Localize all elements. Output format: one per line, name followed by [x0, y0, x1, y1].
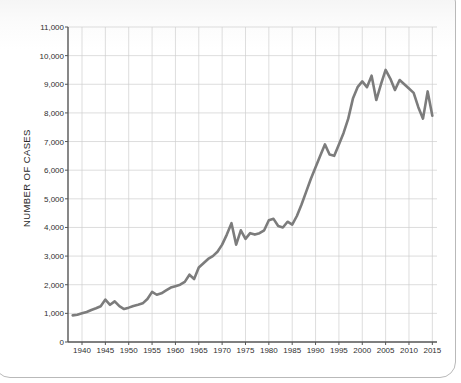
axis-tick-marks [65, 27, 432, 345]
y-axis-tick-label: 4,000 [28, 223, 64, 232]
x-axis-tick-label: 1975 [237, 346, 255, 355]
y-axis-tick-label: 1,000 [28, 309, 64, 318]
y-axis-tick-label: 11,000 [28, 23, 64, 32]
chart-figure: NUMBER OF CASES 01,0002,0003,0004,0005,0… [0, 0, 461, 383]
x-axis-tick-label: 2005 [377, 346, 395, 355]
scanned-page: NUMBER OF CASES 01,0002,0003,0004,0005,0… [0, 0, 461, 383]
axis-lines [68, 27, 437, 342]
x-axis-tick-label: 2000 [353, 346, 371, 355]
y-axis-tick-label: 6,000 [28, 166, 64, 175]
y-axis-tick-label: 8,000 [28, 108, 64, 117]
line-chart-plot [0, 0, 461, 383]
x-axis-tick-label: 1960 [167, 346, 185, 355]
y-axis-tick-labels: 01,0002,0003,0004,0005,0006,0007,0008,00… [28, 0, 64, 383]
x-axis-tick-label: 1940 [73, 346, 91, 355]
x-axis-tick-label: 1990 [307, 346, 325, 355]
x-axis-tick-label: 1995 [330, 346, 348, 355]
x-axis-tick-label: 1985 [283, 346, 301, 355]
x-axis-tick-label: 1945 [96, 346, 114, 355]
x-axis-tick-label: 2010 [400, 346, 418, 355]
y-axis-tick-label: 10,000 [28, 51, 64, 60]
x-axis-tick-label: 1950 [120, 346, 138, 355]
x-axis-tick-label: 1965 [190, 346, 208, 355]
y-axis-tick-label: 9,000 [28, 80, 64, 89]
y-axis-tick-label: 7,000 [28, 137, 64, 146]
data-series-lines [73, 70, 433, 315]
y-axis-tick-label: 3,000 [28, 252, 64, 261]
grid-lines [68, 27, 437, 342]
x-axis-tick-label: 1980 [260, 346, 278, 355]
y-axis-tick-label: 2,000 [28, 280, 64, 289]
x-axis-tick-labels: 1940194519501955196019651970197519801985… [0, 346, 461, 360]
y-axis-tick-label: 5,000 [28, 194, 64, 203]
x-axis-tick-label: 1955 [143, 346, 161, 355]
x-axis-tick-label: 2015 [423, 346, 441, 355]
x-axis-tick-label: 1970 [213, 346, 231, 355]
